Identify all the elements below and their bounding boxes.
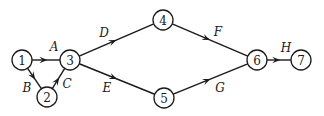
edge-label: D — [98, 26, 109, 40]
node-2: 2 — [37, 87, 57, 107]
edge-label: A — [49, 40, 59, 54]
node-label: 3 — [66, 54, 74, 68]
node-label: 7 — [297, 54, 305, 68]
edge-label: G — [215, 81, 225, 95]
node-label: 1 — [18, 54, 26, 68]
edge-label: C — [62, 77, 71, 91]
edge-E — [79, 64, 154, 95]
edge-H — [267, 57, 291, 63]
edge-D — [79, 24, 154, 56]
node-label: 6 — [253, 54, 261, 68]
node-label: 5 — [160, 92, 168, 106]
edge-A — [32, 57, 60, 63]
node-label: 2 — [43, 91, 51, 105]
edge-label: B — [22, 81, 32, 95]
node-label: 4 — [159, 14, 167, 28]
edge-label: F — [213, 25, 223, 39]
node-3: 3 — [60, 50, 80, 70]
node-4: 4 — [153, 10, 173, 30]
activity-network-diagram: ABCDEFGH 1234567 — [0, 0, 324, 116]
node-7: 7 — [291, 50, 311, 70]
node-5: 5 — [154, 88, 174, 108]
edge-label: H — [280, 41, 292, 55]
edge-F — [172, 24, 248, 56]
arrowhead-icon — [52, 77, 59, 85]
edge-label: E — [102, 81, 112, 95]
edge-G — [173, 64, 247, 94]
node-6: 6 — [247, 50, 267, 70]
node-1: 1 — [12, 50, 32, 70]
